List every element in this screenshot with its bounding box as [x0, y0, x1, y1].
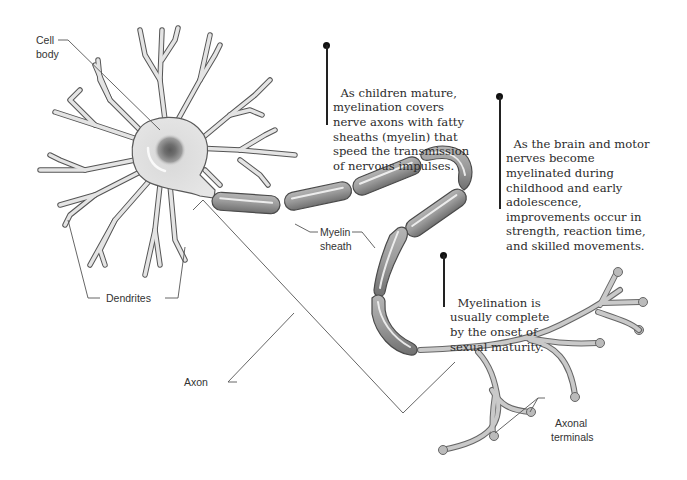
label-axon: Axon — [184, 376, 208, 388]
note-motor-improvements: As the brain and motor nerves become mye… — [506, 93, 649, 254]
leader-lines — [58, 40, 545, 433]
note-myelination-complete: Myelination is usually complete by the o… — [450, 252, 549, 354]
note-bar — [499, 96, 501, 209]
note-text: Myelination is usually complete by the o… — [450, 296, 549, 354]
note-bar — [443, 255, 445, 307]
nucleus — [154, 134, 186, 166]
note-bar — [326, 45, 328, 125]
label-cell-body-2: body — [36, 48, 60, 60]
label-axonal-terminals: Axonal — [555, 417, 587, 429]
label-myelin-sheath-2: sheath — [320, 240, 352, 252]
note-text: As children mature, myelination covers n… — [333, 86, 469, 173]
label-myelin-sheath: Myelin — [320, 226, 351, 238]
note-text: As the brain and motor nerves become mye… — [506, 137, 649, 253]
label-dendrites: Dendrites — [106, 292, 151, 304]
note-myelination-covers-axons: As children mature, myelination covers n… — [333, 42, 469, 173]
label-cell-body: Cell — [36, 34, 54, 46]
label-axonal-terminals-2: terminals — [551, 431, 594, 443]
